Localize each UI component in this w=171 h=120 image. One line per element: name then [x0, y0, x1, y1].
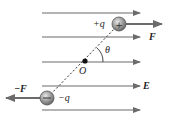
positive-charge: +	[112, 17, 126, 31]
label-negative-force: −F	[14, 83, 27, 94]
label-positive-charge: +q	[93, 18, 105, 29]
svg-text:+: +	[115, 20, 123, 30]
label-angle: θ	[105, 44, 110, 55]
negative-charge	[40, 91, 54, 105]
label-pivot: O	[79, 65, 86, 76]
label-field: E	[142, 80, 150, 91]
label-force: F	[148, 31, 156, 42]
pivot-point	[82, 58, 87, 63]
angle-arc	[97, 48, 103, 62]
dipole-diagram: + +q −q F −F θ O E	[0, 0, 171, 120]
label-negative-charge: −q	[58, 92, 70, 103]
